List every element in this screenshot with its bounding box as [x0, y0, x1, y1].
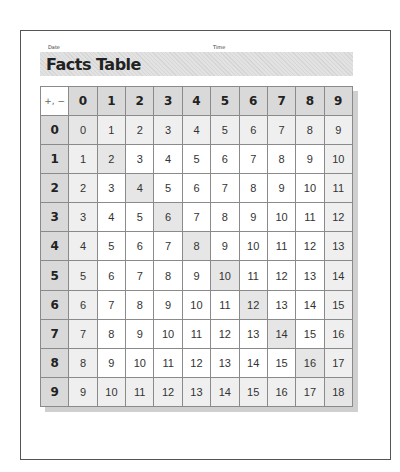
- sum-cell: 4: [154, 145, 182, 174]
- sum-cell: 15: [267, 348, 295, 377]
- sum-cell: 9: [239, 203, 267, 232]
- sum-cell: 3: [69, 203, 97, 232]
- sum-cell: 4: [69, 232, 97, 261]
- sum-cell: 13: [211, 348, 239, 377]
- diagonal-cell: 14: [267, 319, 295, 348]
- sum-cell: 9: [182, 261, 210, 290]
- sum-cell: 16: [324, 319, 352, 348]
- sum-cell: 7: [267, 116, 295, 145]
- sum-cell: 9: [126, 319, 154, 348]
- sum-cell: 10: [324, 145, 352, 174]
- table-row: 99101112131415161718: [41, 377, 353, 406]
- sum-cell: 4: [97, 203, 125, 232]
- sum-cell: 5: [97, 232, 125, 261]
- sum-cell: 11: [182, 319, 210, 348]
- row-header: 2: [41, 174, 69, 203]
- sum-cell: 12: [267, 261, 295, 290]
- diagonal-cell: 16: [296, 348, 324, 377]
- sum-cell: 11: [239, 261, 267, 290]
- sum-cell: 7: [126, 261, 154, 290]
- table-row: 00123456789: [41, 116, 353, 145]
- column-header: 8: [296, 87, 324, 116]
- sum-cell: 8: [97, 319, 125, 348]
- sum-cell: 13: [267, 290, 295, 319]
- sum-cell: 13: [324, 232, 352, 261]
- table-row: 5567891011121314: [41, 261, 353, 290]
- sum-cell: 4: [182, 116, 210, 145]
- sum-cell: 10: [97, 377, 125, 406]
- sum-cell: 2: [126, 116, 154, 145]
- table-row: 2234567891011: [41, 174, 353, 203]
- sum-cell: 13: [182, 377, 210, 406]
- diagonal-cell: 12: [239, 290, 267, 319]
- sum-cell: 3: [97, 174, 125, 203]
- column-header: 2: [126, 87, 154, 116]
- sum-cell: 8: [296, 116, 324, 145]
- sum-cell: 8: [267, 145, 295, 174]
- sum-cell: 15: [296, 319, 324, 348]
- sum-cell: 9: [97, 348, 125, 377]
- sum-cell: 8: [211, 203, 239, 232]
- sum-cell: 13: [239, 319, 267, 348]
- column-header: 4: [182, 87, 210, 116]
- sum-cell: 14: [324, 261, 352, 290]
- sum-cell: 5: [126, 203, 154, 232]
- column-header: 6: [239, 87, 267, 116]
- sum-cell: 11: [126, 377, 154, 406]
- sum-cell: 10: [296, 174, 324, 203]
- facts-table-wrapper: +, −012345678900123456789112345678910223…: [40, 86, 353, 407]
- table-row: 445678910111213: [41, 232, 353, 261]
- sum-cell: 15: [239, 377, 267, 406]
- facts-table: +, −012345678900123456789112345678910223…: [40, 86, 353, 407]
- sum-cell: 3: [126, 145, 154, 174]
- column-header: 0: [69, 87, 97, 116]
- sum-cell: 5: [154, 174, 182, 203]
- diagonal-cell: 2: [97, 145, 125, 174]
- row-header: 6: [41, 290, 69, 319]
- row-header: 4: [41, 232, 69, 261]
- column-header: 1: [97, 87, 125, 116]
- sum-cell: 3: [154, 116, 182, 145]
- sum-cell: 9: [211, 232, 239, 261]
- sum-cell: 5: [182, 145, 210, 174]
- column-header: 9: [324, 87, 352, 116]
- diagonal-cell: 0: [69, 116, 97, 145]
- diagonal-cell: 8: [182, 232, 210, 261]
- sum-cell: 10: [154, 319, 182, 348]
- sum-cell: 11: [267, 232, 295, 261]
- sum-cell: 8: [239, 174, 267, 203]
- sum-cell: 7: [239, 145, 267, 174]
- row-header: 1: [41, 145, 69, 174]
- sum-cell: 6: [211, 145, 239, 174]
- sum-cell: 6: [239, 116, 267, 145]
- table-row: 8891011121314151617: [41, 348, 353, 377]
- sum-cell: 12: [154, 377, 182, 406]
- sum-cell: 10: [239, 232, 267, 261]
- sum-cell: 11: [296, 203, 324, 232]
- diagonal-cell: 4: [126, 174, 154, 203]
- sum-cell: 2: [69, 174, 97, 203]
- sum-cell: 7: [97, 290, 125, 319]
- sum-cell: 12: [324, 203, 352, 232]
- sum-cell: 6: [97, 261, 125, 290]
- sum-cell: 8: [126, 290, 154, 319]
- sum-cell: 10: [267, 203, 295, 232]
- sum-cell: 11: [154, 348, 182, 377]
- table-row: 66789101112131415: [41, 290, 353, 319]
- sum-cell: 10: [182, 290, 210, 319]
- sum-cell: 11: [324, 174, 352, 203]
- page-title: Facts Table: [46, 55, 141, 74]
- sum-cell: 6: [69, 290, 97, 319]
- row-header: 5: [41, 261, 69, 290]
- table-row: 33456789101112: [41, 203, 353, 232]
- sum-cell: 9: [154, 290, 182, 319]
- sum-cell: 8: [154, 261, 182, 290]
- sum-cell: 7: [211, 174, 239, 203]
- table-row: 778910111213141516: [41, 319, 353, 348]
- sum-cell: 6: [126, 232, 154, 261]
- sum-cell: 14: [211, 377, 239, 406]
- sum-cell: 9: [69, 377, 97, 406]
- sum-cell: 15: [324, 290, 352, 319]
- sum-cell: 16: [267, 377, 295, 406]
- sum-cell: 12: [296, 232, 324, 261]
